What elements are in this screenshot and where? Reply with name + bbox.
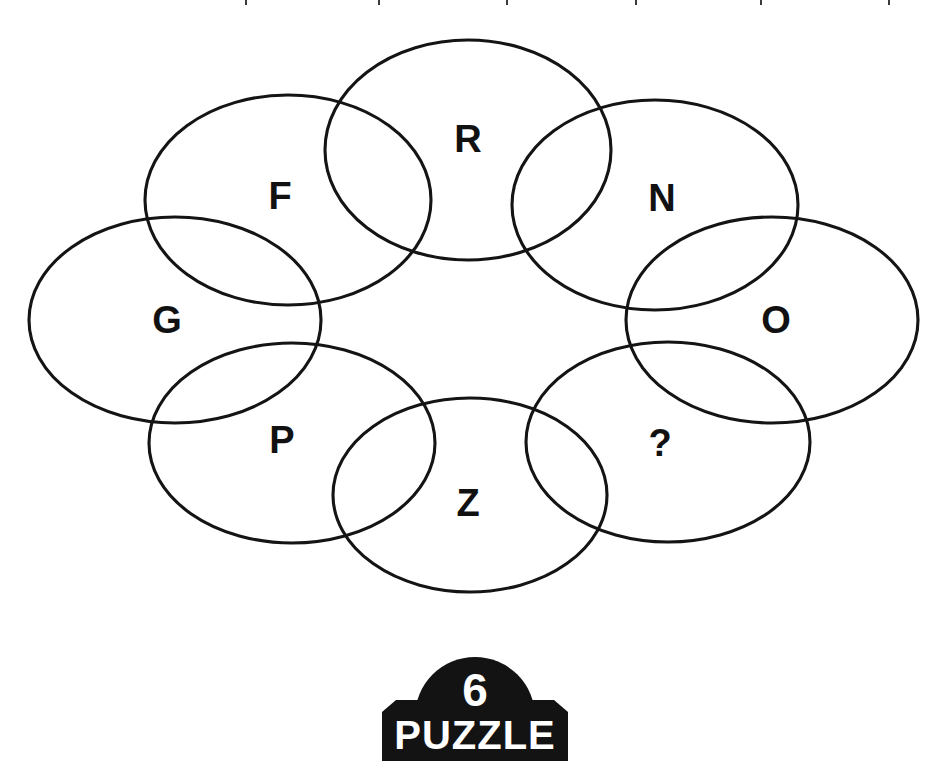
- cell-o-label: O: [761, 299, 791, 341]
- puzzle-page: RNO?ZPGF 6 PUZZLE: [0, 0, 938, 761]
- badge-word: PUZZLE: [394, 713, 556, 757]
- cell-labels-group: RNO?ZPGF: [152, 118, 791, 524]
- cell-g-label: G: [152, 299, 182, 341]
- puzzle-badge: 6 PUZZLE: [382, 657, 568, 761]
- cell-n-label: N: [648, 177, 675, 219]
- cell-p-label: P: [269, 419, 294, 461]
- badge-number: 6: [462, 664, 488, 716]
- cell-f-label: F: [268, 175, 291, 217]
- ellipse-ring-diagram: RNO?ZPGF 6 PUZZLE: [0, 0, 938, 761]
- cell-q-label[interactable]: ?: [648, 422, 671, 464]
- cell-z-label: Z: [456, 482, 479, 524]
- cell-r-label: R: [454, 118, 481, 160]
